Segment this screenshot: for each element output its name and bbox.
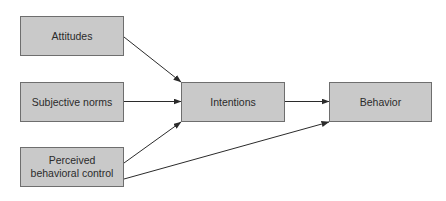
- node-subjective-norms-label: Subjective norms: [32, 96, 113, 109]
- node-intentions-label: Intentions: [210, 96, 256, 109]
- arrow-attitudes-to-intentions: [124, 37, 181, 82]
- node-perceived-behavioral-control: Perceived behavioral control: [20, 147, 124, 187]
- node-attitudes-label: Attitudes: [52, 30, 93, 43]
- node-pbc-label-line1: Perceived: [49, 154, 96, 167]
- node-subjective-norms: Subjective norms: [20, 82, 124, 122]
- node-behavior: Behavior: [329, 82, 432, 122]
- node-behavior-label: Behavior: [360, 96, 401, 109]
- arrow-pbc-to-intentions: [124, 122, 181, 163]
- node-pbc-label-line2: behavioral control: [31, 167, 114, 180]
- node-intentions: Intentions: [181, 82, 285, 122]
- diagram-canvas: Attitudes Subjective norms Perceived beh…: [0, 0, 446, 201]
- node-attitudes: Attitudes: [20, 16, 124, 56]
- arrow-pbc-to-behavior: [124, 122, 329, 179]
